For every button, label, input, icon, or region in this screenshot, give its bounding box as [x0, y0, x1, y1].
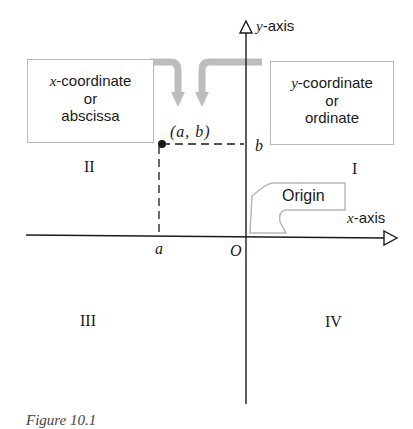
x-axis-label: x-axis	[347, 209, 385, 227]
x-axis-arrowhead-icon	[384, 231, 397, 245]
quadrant-iv-label: IV	[325, 313, 342, 331]
y-coordinate-callout: y-coordinate or ordinate	[270, 61, 394, 145]
y-axis-arrowhead-icon	[240, 21, 252, 33]
y-callout-arrowhead-icon	[195, 92, 209, 107]
point-marker	[158, 140, 166, 148]
point-label: (a, b)	[170, 123, 211, 141]
x-value-label: a	[155, 240, 163, 258]
x-callout-arrowhead-icon	[171, 92, 185, 107]
quadrant-iii-label: III	[80, 312, 96, 330]
x-axis-line	[26, 235, 385, 238]
x-coordinate-callout: x-coordinate or abscissa	[27, 59, 154, 143]
y-callout-arrow-shaft	[202, 62, 262, 94]
origin-label: O	[230, 242, 242, 260]
figure-caption: Figure 10.1	[26, 412, 96, 429]
quadrant-i-label: I	[352, 160, 357, 178]
quadrant-ii-label: II	[84, 158, 95, 176]
y-value-label: b	[255, 137, 263, 155]
y-axis-label: y-axis	[256, 17, 294, 35]
x-callout-arrow-shaft	[150, 62, 178, 94]
origin-callout-text: Origin	[282, 187, 325, 205]
